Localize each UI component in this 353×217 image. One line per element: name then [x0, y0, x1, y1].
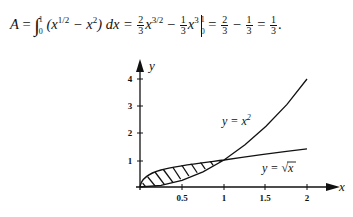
- parabola-label: y = x2: [221, 113, 251, 128]
- area-graph: 0.5 1 1.5 2 1 2 3 4 y x y = x2 y = √x: [0, 0, 353, 217]
- y-tick-label: 4: [128, 74, 133, 84]
- y-tick-label: 2: [128, 128, 133, 138]
- y-axis-label: y: [147, 58, 155, 73]
- y-tick-label: 1: [128, 156, 133, 166]
- x-axis-label: x: [338, 179, 345, 194]
- sqrt-label: y = √x: [261, 161, 294, 175]
- x-axis-arrow-icon: [326, 183, 340, 191]
- x-tick-label: 0.5: [176, 193, 188, 203]
- y-axis-arrow-icon: [136, 59, 144, 72]
- x-tick-label: 1: [222, 193, 227, 203]
- x-tick-label: 1.5: [259, 193, 271, 203]
- y-tick-label: 3: [128, 101, 133, 111]
- x-tick-label: 2: [305, 193, 310, 203]
